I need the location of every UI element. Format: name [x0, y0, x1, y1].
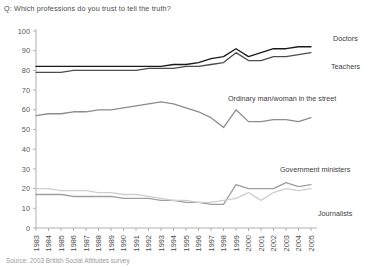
- svg-text:2003: 2003: [282, 235, 291, 251]
- svg-text:2004: 2004: [294, 235, 303, 251]
- series-lines: [36, 47, 311, 205]
- svg-text:1990: 1990: [119, 235, 128, 251]
- svg-text:Government ministers: Government ministers: [280, 165, 351, 174]
- line-chart-svg: 0102030405060708090100 19831984198519861…: [0, 22, 378, 267]
- svg-text:20: 20: [22, 184, 30, 193]
- svg-text:2002: 2002: [269, 235, 278, 251]
- svg-text:1989: 1989: [107, 235, 116, 251]
- svg-text:1993: 1993: [157, 235, 166, 251]
- plot-area: 0102030405060708090100 19831984198519861…: [0, 22, 378, 232]
- svg-text:10: 10: [22, 204, 30, 213]
- svg-text:1997: 1997: [207, 235, 216, 251]
- svg-text:1985: 1985: [57, 235, 66, 251]
- svg-text:2000: 2000: [244, 235, 253, 251]
- svg-text:0: 0: [26, 224, 30, 233]
- svg-text:1988: 1988: [94, 235, 103, 251]
- svg-text:1991: 1991: [132, 235, 141, 251]
- svg-text:1999: 1999: [232, 235, 241, 251]
- svg-text:30: 30: [22, 165, 30, 174]
- svg-text:Journalists: Journalists: [318, 209, 353, 218]
- svg-text:Ordinary man/woman in the stre: Ordinary man/woman in the street: [228, 94, 336, 103]
- svg-text:40: 40: [22, 145, 30, 154]
- svg-text:1983: 1983: [32, 235, 41, 251]
- x-axis: 1983198419851986198719881989199019911992…: [32, 228, 317, 251]
- svg-text:50: 50: [22, 125, 30, 134]
- svg-text:1995: 1995: [182, 235, 191, 251]
- svg-text:1984: 1984: [44, 235, 53, 251]
- svg-text:1992: 1992: [144, 235, 153, 251]
- source-note: Source: 2003 British Social Attitudes su…: [6, 257, 130, 264]
- svg-text:70: 70: [22, 86, 30, 95]
- svg-text:100: 100: [18, 27, 30, 36]
- y-axis: 0102030405060708090100: [18, 27, 36, 233]
- svg-text:Teachers: Teachers: [331, 62, 361, 71]
- svg-text:2005: 2005: [307, 235, 316, 251]
- chart-container: Q: Which professions do you trust to tel…: [0, 0, 378, 267]
- svg-text:1986: 1986: [69, 235, 78, 251]
- svg-text:Doctors: Doctors: [333, 34, 358, 43]
- svg-text:80: 80: [22, 66, 30, 75]
- svg-text:1994: 1994: [169, 235, 178, 251]
- svg-text:60: 60: [22, 105, 30, 114]
- svg-text:1998: 1998: [219, 235, 228, 251]
- svg-text:1996: 1996: [194, 235, 203, 251]
- svg-text:2001: 2001: [257, 235, 266, 251]
- svg-text:90: 90: [22, 46, 30, 55]
- page-title: Q: Which professions do you trust to tel…: [4, 4, 171, 13]
- svg-text:1987: 1987: [82, 235, 91, 251]
